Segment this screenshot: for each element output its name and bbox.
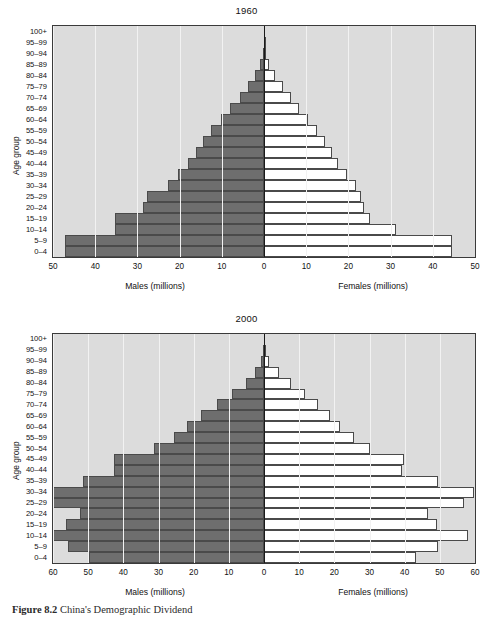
bar-female [264, 378, 291, 389]
bar-male [221, 114, 264, 125]
bar-female [264, 213, 370, 224]
y-axis-tick-label: 80–84 [26, 72, 47, 80]
bar-male [114, 454, 264, 465]
bar-female [264, 399, 318, 410]
bar-female [264, 147, 332, 158]
x-axis-labels-1960: 504030201001020304050 [52, 262, 476, 276]
y-axis-labels-1960: 100+95–9990–9485–8980–8475–7970–7465–696… [0, 25, 50, 258]
y-axis-tick-label: 60–64 [26, 423, 47, 431]
gridline [194, 334, 195, 563]
plot-area-1960 [52, 25, 476, 258]
gridline [405, 334, 406, 563]
bar-male [246, 378, 264, 389]
gridline [53, 334, 54, 563]
y-axis-tick-label: 45–49 [26, 455, 47, 463]
gridline [53, 26, 54, 257]
bar-male [66, 519, 264, 530]
bar-male [68, 541, 264, 552]
bar-female [264, 114, 308, 125]
bar-female [264, 158, 338, 169]
x-axis-tick-label: 50 [435, 568, 444, 577]
y-axis-tick-label: 80–84 [26, 379, 47, 387]
y-axis-tick-label: 45–49 [26, 149, 47, 157]
bar-male [154, 443, 264, 454]
bar-male [230, 103, 264, 114]
x-axis-tick-label: 10 [224, 568, 233, 577]
x-axis-tick-label: 10 [295, 568, 304, 577]
gridline [334, 334, 335, 563]
bar-male [232, 389, 264, 400]
plot-area-2000 [52, 333, 476, 564]
y-axis-tick-label: 95–99 [26, 39, 47, 47]
gridline [229, 334, 230, 563]
y-axis-tick-label: 90–94 [26, 50, 47, 58]
bar-male [201, 410, 264, 421]
y-axis-tick-label: 75–79 [26, 83, 47, 91]
y-axis-tick-label: 15–19 [26, 215, 47, 223]
gridline [306, 26, 307, 257]
gridline [159, 334, 160, 563]
bar-female [264, 136, 325, 147]
y-axis-tick-label: 5–9 [34, 237, 47, 245]
x-axis-tick-label: 30 [133, 262, 142, 271]
bar-female [264, 235, 452, 246]
y-axis-tick-label: 100+ [30, 335, 47, 343]
y-axis-tick-label: 55–59 [26, 434, 47, 442]
x-axis-tick-label: 20 [175, 262, 184, 271]
bar-female [264, 476, 438, 487]
y-axis-tick-label: 60–64 [26, 116, 47, 124]
y-axis-tick-label: 0–4 [34, 554, 47, 562]
y-axis-tick-label: 65–69 [26, 412, 47, 420]
x-axis-tick-label: 0 [262, 568, 267, 577]
bar-female [264, 530, 468, 541]
gridline [137, 26, 138, 257]
y-axis-tick-label: 55–59 [26, 127, 47, 135]
bar-male [203, 136, 264, 147]
bar-female [264, 465, 402, 476]
x-axis-tick-label: 30 [386, 262, 395, 271]
y-axis-tick-label: 35–39 [26, 477, 47, 485]
x-axis-title-males-1960: Males (millions) [125, 281, 185, 291]
bar-male [217, 399, 264, 410]
chart-title-2000: 2000 [0, 313, 493, 324]
x-axis-title-females-1960: Females (millions) [338, 281, 408, 291]
bar-female [264, 92, 291, 103]
x-axis-tick-label: 10 [217, 262, 226, 271]
figure-caption: Figure 8.2 China's Demographic Dividend [12, 604, 482, 615]
bar-female [264, 103, 299, 114]
gridline [475, 26, 476, 257]
y-axis-tick-label: 75–79 [26, 390, 47, 398]
bar-male [240, 92, 264, 103]
y-axis-tick-label: 85–89 [26, 368, 47, 376]
y-axis-tick-label: 95–99 [26, 346, 47, 354]
x-axis-tick-label: 30 [154, 568, 163, 577]
x-axis-labels-2000: 6050403020100102030405060 [52, 568, 476, 582]
gridline [222, 26, 223, 257]
chart-panel-2000: 2000 Age group 100+95–9990–9485–8980–847… [0, 308, 493, 618]
y-axis-tick-label: 30–34 [26, 182, 47, 190]
x-axis-tick-label: 40 [400, 568, 409, 577]
bar-male [168, 180, 264, 191]
y-axis-tick-label: 15–19 [26, 521, 47, 529]
bar-male [89, 552, 264, 563]
y-axis-tick-label: 85–89 [26, 61, 47, 69]
bar-male [248, 81, 264, 92]
x-axis-title-females-2000: Females (millions) [338, 587, 408, 597]
bar-male [188, 158, 264, 169]
gridline [299, 334, 300, 563]
x-axis-tick-label: 60 [470, 568, 479, 577]
x-axis-tick-label: 50 [84, 568, 93, 577]
gridline [95, 26, 96, 257]
bar-male [174, 432, 264, 443]
bar-female [264, 508, 428, 519]
x-axis-tick-label: 40 [428, 262, 437, 271]
y-axis-tick-label: 90–94 [26, 357, 47, 365]
y-axis-tick-label: 40–44 [26, 466, 47, 474]
x-axis-title-males-2000: Males (millions) [125, 587, 185, 597]
bar-female [264, 432, 354, 443]
bar-female [264, 541, 438, 552]
y-axis-tick-label: 10–14 [26, 532, 47, 540]
figure-china-demographic-dividend: 1960 Age group 100+95–9990–9485–8980–847… [0, 0, 493, 618]
bar-female [264, 519, 437, 530]
bar-male [211, 125, 264, 136]
